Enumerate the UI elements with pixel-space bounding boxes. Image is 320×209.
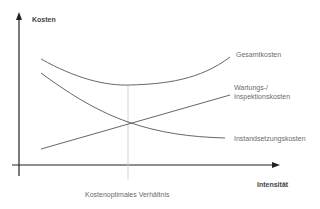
maintenance-cost-label-1: Wartungs-/ xyxy=(234,84,268,92)
total-cost-curve xyxy=(41,57,230,85)
x-axis-arrow-icon xyxy=(272,162,280,168)
repair-cost-curve xyxy=(41,73,225,138)
x-axis-label: Intensität xyxy=(257,181,288,189)
y-axis-arrow-icon xyxy=(16,12,22,20)
maintenance-cost-label-2: Inspektionskosten xyxy=(234,93,290,101)
y-axis-label: Kosten xyxy=(32,16,56,24)
cost-diagram xyxy=(0,0,320,209)
maintenance-cost-line xyxy=(41,95,230,149)
optimum-label: Kostenoptimales Verhältnis xyxy=(85,191,169,199)
total-cost-label: Gesamtkosten xyxy=(236,51,281,59)
repair-cost-label: Instandsetzungskosten xyxy=(234,135,306,143)
